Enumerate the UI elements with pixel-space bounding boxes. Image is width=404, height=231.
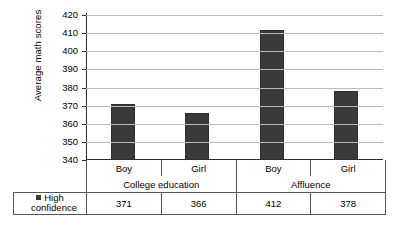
table-row-groups: College educationAffluence (14, 176, 386, 193)
legend-swatch-icon (36, 195, 41, 200)
category-header-cell: Girl (161, 160, 236, 176)
y-tick-mark (82, 142, 86, 143)
plot-area (86, 15, 383, 160)
y-tick-label: 390 (48, 65, 78, 75)
table-row-categories: BoyGirlBoyGirl (14, 160, 386, 176)
category-header-cell: Boy (236, 160, 311, 176)
category-header-cell: Boy (87, 160, 162, 176)
value-cell: 412 (236, 193, 311, 215)
y-tick-mark (82, 69, 86, 70)
y-tick-label: 360 (48, 119, 78, 129)
y-tick-label: 350 (48, 137, 78, 147)
group-header-cell: Affluence (236, 176, 386, 193)
y-tick-mark (82, 106, 86, 107)
group-row-spacer (14, 176, 87, 193)
gridline (86, 69, 383, 70)
y-axis-title: Average math scores (32, 0, 43, 126)
bar (185, 113, 209, 160)
category-row-spacer (14, 160, 87, 176)
bar (260, 30, 284, 161)
y-tick-label: 410 (48, 28, 78, 38)
bar (334, 91, 358, 160)
gridline (86, 142, 383, 143)
y-tick-label: 380 (48, 83, 78, 93)
gridline (86, 106, 383, 107)
category-header-cell: Girl (311, 160, 386, 176)
bar (111, 104, 135, 160)
y-tick-label: 400 (48, 47, 78, 57)
legend-cell: High confidence (14, 193, 87, 215)
data-table: BoyGirlBoyGirl College educationAffluenc… (13, 160, 386, 215)
data-table-wrap: BoyGirlBoyGirl College educationAffluenc… (13, 160, 385, 215)
y-tick-mark (82, 51, 86, 52)
value-cell: 366 (161, 193, 236, 215)
group-header-cell: College education (87, 176, 237, 193)
gridline (86, 51, 383, 52)
y-tick-label: 420 (48, 10, 78, 20)
value-cell: 378 (311, 193, 386, 215)
table-row-values: High confidence 371366412378 (14, 193, 386, 215)
y-tick-mark (82, 88, 86, 89)
legend-label-line2: confidence (14, 203, 86, 213)
y-tick-label: 370 (48, 101, 78, 111)
gridline (86, 15, 383, 16)
value-cell: 371 (87, 193, 162, 215)
gridline (86, 33, 383, 34)
y-axis-tick-labels: 420410400390380370360350340 (48, 15, 78, 160)
y-tick-mark (82, 33, 86, 34)
gridline (86, 124, 383, 125)
bar-chart-figure: Average math scores 42041040039038037036… (0, 0, 404, 231)
y-tick-mark (82, 124, 86, 125)
gridline (86, 88, 383, 89)
y-tick-mark (82, 15, 86, 16)
